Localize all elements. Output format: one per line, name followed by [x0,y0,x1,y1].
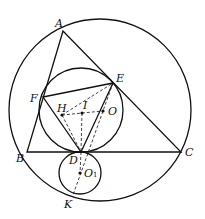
segment-id [81,113,82,152]
triangle-abc [27,31,181,152]
label-o1-sub: 1 [93,171,97,179]
label-k: K [64,199,72,210]
geometry-diagram: A B C D E F H I O O1 K [0,0,205,219]
point-o [101,109,104,112]
label-b: B [16,153,24,164]
label-a: A [55,18,63,29]
segment-hd [62,115,81,152]
diagram-canvas [0,0,205,219]
label-e: E [116,73,124,84]
label-o1-main: O [84,167,93,180]
label-c: C [185,147,193,158]
label-o: O [108,106,117,117]
label-h: H [57,103,67,114]
label-f: F [30,93,38,104]
segment-do1 [80,152,81,173]
label-i: I [83,100,87,111]
label-d: D [69,155,78,166]
point-o1 [78,171,81,174]
label-o1: O1 [84,168,98,179]
